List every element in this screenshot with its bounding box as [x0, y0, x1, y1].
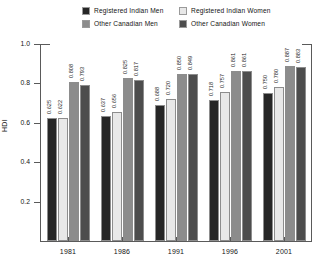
legend-label: Registered Indian Women [191, 7, 271, 15]
bar-group: 0.6370.6560.8250.817 [95, 44, 149, 241]
bar-group: 0.7180.7570.8610.861 [203, 44, 257, 241]
legend-label: Registered Indian Men [94, 7, 164, 15]
bar-slot: 0.817 [134, 44, 144, 241]
bar-groups: 0.6250.6220.8080.7930.6370.6560.8250.817… [41, 44, 311, 241]
bar-value-label: 0.625 [46, 100, 52, 114]
bar-value-label: 0.817 [133, 62, 139, 76]
x-axis-tick-mark [68, 237, 69, 242]
bar-value-label: 0.622 [57, 100, 63, 114]
legend-label: Other Canadian Men [94, 20, 158, 28]
x-axis-tick-label: 1996 [203, 248, 257, 255]
y-axis-title: HDI [1, 119, 8, 132]
y-axis: 0.20.40.60.81.0 [0, 44, 40, 242]
legend-label: Other Canadian Women [191, 20, 265, 28]
bar[interactable]: 0.750 [263, 93, 273, 241]
x-axis-tick: 1986 [95, 242, 149, 266]
legend-item-other-canadian-women: Other Canadian Women [179, 18, 314, 29]
bar-value-label: 0.883 [295, 49, 301, 63]
bar[interactable]: 0.861 [242, 71, 252, 241]
x-axis-tick-label: 1986 [95, 248, 149, 255]
bar-value-label: 0.757 [219, 74, 225, 88]
bar-slot: 0.688 [155, 44, 165, 241]
bar-slot: 0.793 [80, 44, 90, 241]
bar[interactable]: 0.637 [101, 116, 111, 241]
bar-slot: 0.750 [263, 44, 273, 241]
bar[interactable]: 0.887 [285, 66, 295, 241]
bar-value-label: 0.720 [165, 81, 171, 95]
bar[interactable]: 0.849 [188, 74, 198, 241]
bar-slot: 0.861 [242, 44, 252, 241]
bar-slot: 0.825 [123, 44, 133, 241]
x-axis-tick: 1996 [203, 242, 257, 266]
bar-value-label: 0.861 [230, 53, 236, 67]
legend-item-registered-indian-women: Registered Indian Women [179, 5, 314, 16]
x-axis: 19811986199119962001 [41, 242, 311, 266]
bar[interactable]: 0.793 [80, 85, 90, 241]
legend-swatch-icon [82, 7, 90, 15]
bar-slot: 0.622 [58, 44, 68, 241]
bar-slot: 0.887 [285, 44, 295, 241]
bar[interactable]: 0.720 [166, 99, 176, 241]
bar-value-label: 0.637 [100, 98, 106, 112]
bar-slot: 0.656 [112, 44, 122, 241]
bar-slot: 0.780 [274, 44, 284, 241]
bar[interactable]: 0.817 [134, 80, 144, 241]
bar[interactable]: 0.780 [274, 87, 284, 241]
bar[interactable]: 0.808 [69, 82, 79, 241]
legend-swatch-icon [179, 7, 187, 15]
x-axis-tick-mark [122, 237, 123, 242]
y-axis-tick-label: 1.0 [21, 39, 30, 48]
bar-slot: 0.637 [101, 44, 111, 241]
bar-value-label: 0.808 [68, 64, 74, 78]
bar-slot: 0.883 [296, 44, 306, 241]
bar-value-label: 0.656 [111, 94, 117, 108]
bar-value-label: 0.793 [79, 67, 85, 81]
legend-item-other-canadian-men: Other Canadian Men [82, 18, 179, 29]
legend-swatch-icon [179, 20, 187, 28]
x-axis-tick: 2001 [257, 242, 311, 266]
x-axis-tick: 1981 [41, 242, 95, 266]
bar[interactable]: 0.883 [296, 67, 306, 241]
bar-value-label: 0.825 [122, 60, 128, 74]
x-axis-tick-label: 2001 [257, 248, 311, 255]
bar[interactable]: 0.656 [112, 112, 122, 241]
x-axis-tick: 1991 [149, 242, 203, 266]
x-axis-tick-mark [284, 237, 285, 242]
bar-slot: 0.849 [188, 44, 198, 241]
y-axis-tick-label: 0.2 [21, 197, 30, 206]
x-axis-tick-label: 1981 [41, 248, 95, 255]
bar[interactable]: 0.622 [58, 118, 68, 241]
hdi-bar-chart: Registered Indian Men Registered Indian … [0, 0, 323, 272]
bar-group: 0.6250.6220.8080.793 [41, 44, 95, 241]
bar-value-label: 0.688 [154, 87, 160, 101]
legend-swatch-icon [82, 20, 90, 28]
bar[interactable]: 0.825 [123, 78, 133, 241]
chart-legend: Registered Indian Men Registered Indian … [82, 5, 314, 29]
bar-slot: 0.718 [209, 44, 219, 241]
bar-value-label: 0.750 [262, 75, 268, 89]
x-axis-tick-label: 1991 [149, 248, 203, 255]
x-axis-tick-mark [230, 237, 231, 242]
bar-value-label: 0.861 [241, 53, 247, 67]
bar[interactable]: 0.861 [231, 71, 241, 241]
bar-slot: 0.861 [231, 44, 241, 241]
bar-group: 0.7500.7800.8870.883 [257, 44, 311, 241]
bar-group: 0.6880.7200.8500.849 [149, 44, 203, 241]
bar-slot: 0.625 [47, 44, 57, 241]
bar[interactable]: 0.850 [177, 74, 187, 241]
x-axis-tick-mark [176, 237, 177, 242]
bar-value-label: 0.718 [208, 82, 214, 96]
y-axis-tick-label: 0.4 [21, 157, 30, 166]
bar-slot: 0.720 [166, 44, 176, 241]
bar-slot: 0.808 [69, 44, 79, 241]
y-axis-tick-label: 0.6 [21, 118, 30, 127]
bar[interactable]: 0.757 [220, 92, 230, 241]
bar[interactable]: 0.625 [47, 118, 57, 241]
bar[interactable]: 0.688 [155, 105, 165, 241]
bar-slot: 0.850 [177, 44, 187, 241]
bar-value-label: 0.887 [284, 48, 290, 62]
bar-slot: 0.757 [220, 44, 230, 241]
bar[interactable]: 0.718 [209, 100, 219, 241]
bar-value-label: 0.850 [176, 56, 182, 70]
bar-value-label: 0.849 [187, 56, 193, 70]
